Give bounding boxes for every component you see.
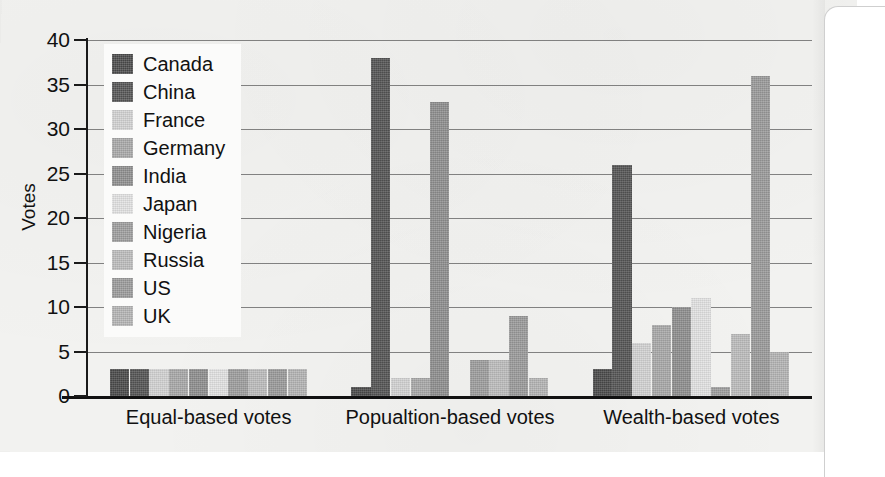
legend-swatch-icon xyxy=(112,222,133,242)
legend-item-label: France xyxy=(143,110,205,130)
legend-swatch-icon xyxy=(112,54,133,74)
y-axis-tick-label: 30 xyxy=(30,118,70,139)
legend-item-label: China xyxy=(143,82,195,102)
legend-item-label: Japan xyxy=(143,194,198,214)
bar xyxy=(110,369,129,396)
legend-item: Russia xyxy=(112,246,233,274)
bar xyxy=(593,369,612,396)
legend-swatch-icon xyxy=(112,166,133,186)
bar xyxy=(691,298,710,396)
bar xyxy=(612,165,631,396)
legend-item-label: Russia xyxy=(143,250,204,270)
legend-item-label: India xyxy=(143,166,186,186)
legend-item-label: Canada xyxy=(143,54,213,74)
legend-item: UK xyxy=(112,302,233,330)
legend-item: France xyxy=(112,106,233,134)
legend-swatch-icon xyxy=(112,82,133,102)
y-axis-tick xyxy=(74,262,87,264)
legend-item: India xyxy=(112,162,233,190)
bar xyxy=(411,378,430,396)
legend-item: US xyxy=(112,274,233,302)
y-axis-title: Votes xyxy=(18,162,40,252)
bar xyxy=(189,369,208,396)
y-axis-tick xyxy=(74,39,87,41)
legend-swatch-icon xyxy=(112,306,133,326)
legend-item: China xyxy=(112,78,233,106)
bar xyxy=(672,307,691,396)
y-axis-tick xyxy=(74,84,87,86)
bar xyxy=(248,369,267,396)
legend-swatch-icon xyxy=(112,194,133,214)
bar xyxy=(209,369,228,396)
legend-item: Canada xyxy=(112,50,233,78)
legend-swatch-icon xyxy=(112,138,133,158)
legend-swatch-icon xyxy=(112,110,133,130)
x-axis-group-label: Wealth-based votes xyxy=(541,406,841,429)
bar xyxy=(430,102,449,396)
legend-item: Japan xyxy=(112,190,233,218)
bar xyxy=(169,369,188,396)
x-axis-line xyxy=(62,396,812,399)
bar xyxy=(770,352,789,397)
bar xyxy=(371,58,390,396)
bar xyxy=(288,369,307,396)
y-axis-tick xyxy=(74,217,87,219)
y-axis-tick-label: 15 xyxy=(30,252,70,273)
chart-legend: CanadaChinaFranceGermanyIndiaJapanNigeri… xyxy=(104,44,241,337)
bar xyxy=(228,369,247,396)
bar xyxy=(632,343,651,396)
y-axis-tick xyxy=(74,306,87,308)
legend-item-label: US xyxy=(143,278,171,298)
y-axis-tick xyxy=(74,395,87,397)
bar xyxy=(391,378,410,396)
legend-item: Nigeria xyxy=(112,218,233,246)
y-axis-tick-label: 5 xyxy=(30,341,70,362)
bar xyxy=(652,325,671,396)
y-axis-tick xyxy=(74,128,87,130)
bar xyxy=(731,334,750,396)
bar xyxy=(130,369,149,396)
bar xyxy=(529,378,548,396)
y-axis-tick-label: 35 xyxy=(30,74,70,95)
bar xyxy=(149,369,168,396)
bar xyxy=(268,369,287,396)
y-axis-tick-label: 40 xyxy=(30,29,70,50)
page-edge-panel xyxy=(824,6,885,477)
y-axis-tick xyxy=(74,173,87,175)
legend-item-label: Germany xyxy=(143,138,225,158)
legend-swatch-icon xyxy=(112,250,133,270)
legend-swatch-icon xyxy=(112,278,133,298)
bar xyxy=(711,387,730,396)
y-axis-tick-label: 0 xyxy=(30,385,70,406)
legend-item-label: UK xyxy=(143,306,171,326)
bar xyxy=(751,76,770,396)
bar xyxy=(489,360,508,396)
y-axis-tick-label: 10 xyxy=(30,296,70,317)
bar xyxy=(509,316,528,396)
bar xyxy=(470,360,489,396)
legend-item-label: Nigeria xyxy=(143,222,206,242)
legend-item: Germany xyxy=(112,134,233,162)
bar xyxy=(351,387,370,396)
y-axis-tick xyxy=(74,351,87,353)
